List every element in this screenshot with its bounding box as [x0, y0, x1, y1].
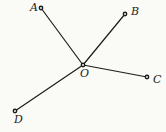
point-marker-C: [145, 75, 148, 78]
segment-OC: [83, 65, 147, 77]
point-marker-A: [39, 6, 42, 9]
segment-OA: [41, 8, 83, 65]
point-label-D: D: [13, 113, 23, 126]
point-label-O: O: [80, 67, 89, 80]
segment-OD: [15, 65, 83, 111]
geometry-figure: OABCD: [0, 0, 166, 132]
point-label-B: B: [130, 5, 139, 18]
point-label-A: A: [29, 1, 38, 14]
segment-OB: [83, 14, 125, 65]
point-marker-B: [123, 12, 126, 15]
rays-from-vertex-diagram: OABCD: [0, 0, 166, 132]
point-label-C: C: [153, 73, 162, 86]
